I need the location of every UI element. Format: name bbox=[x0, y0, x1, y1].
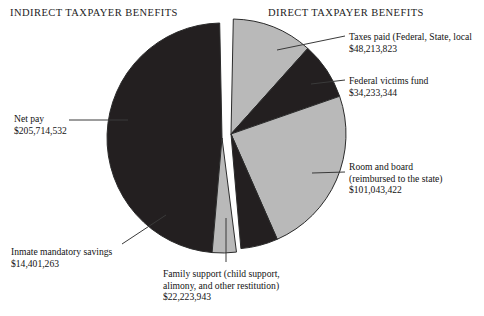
callout-family-support-line1: Family support (child support, bbox=[163, 268, 280, 279]
pie-slice-net-pay[interactable] bbox=[107, 23, 222, 253]
callout-federal-victims-fund-line1: Federal victims fund bbox=[349, 75, 428, 86]
pie-group-indirect bbox=[107, 23, 236, 253]
callout-net-pay-line1: Net pay bbox=[14, 113, 44, 124]
callout-net-pay: Net pay $205,714,532 bbox=[14, 113, 67, 136]
callout-room-and-board-amount: $101,043,422 bbox=[349, 184, 443, 196]
callout-family-support-amount: $22,223,943 bbox=[163, 291, 280, 303]
pie-chart-figure: INDIRECT TAXPAYER BENEFITS DIRECT TAXPAY… bbox=[0, 0, 484, 316]
callout-inmate-mandatory-savings-line1: Inmate mandatory savings bbox=[11, 246, 112, 257]
callout-inmate-mandatory-savings-amount: $14,401,263 bbox=[11, 258, 112, 270]
callout-family-support: Family support (child support, alimony, … bbox=[163, 268, 280, 303]
callout-room-and-board-line1: Room and board bbox=[349, 161, 413, 172]
callout-room-and-board: Room and board (reimbursed to the state)… bbox=[349, 161, 443, 196]
pie-group-direct bbox=[231, 19, 346, 249]
callout-taxes-paid-line1: Taxes paid (Federal, State, local bbox=[349, 31, 472, 42]
callout-taxes-paid: Taxes paid (Federal, State, local $48,21… bbox=[349, 31, 472, 54]
callout-federal-victims-fund: Federal victims fund $34,233,344 bbox=[349, 75, 428, 98]
callout-inmate-mandatory-savings: Inmate mandatory savings $14,401,263 bbox=[11, 246, 112, 269]
callout-federal-victims-fund-amount: $34,233,344 bbox=[349, 87, 428, 99]
callout-family-support-line2: alimony, and other restitution) bbox=[163, 280, 280, 292]
callout-taxes-paid-amount: $48,213,823 bbox=[349, 43, 472, 55]
callout-net-pay-amount: $205,714,532 bbox=[14, 125, 67, 137]
callout-room-and-board-line2: (reimbursed to the state) bbox=[349, 173, 443, 185]
